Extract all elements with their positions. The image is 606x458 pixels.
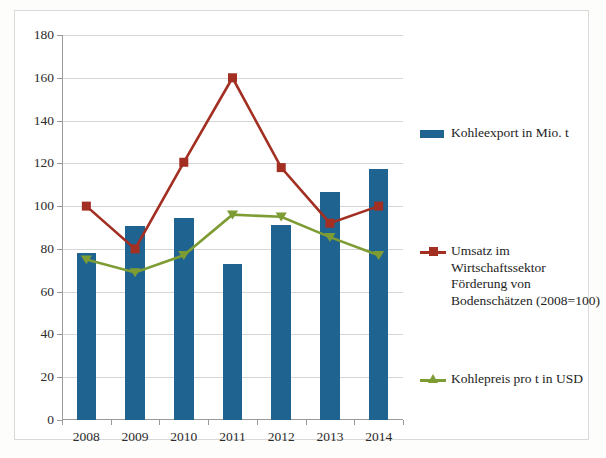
x-axis-tick [159, 420, 160, 425]
legend-label-umsatz-line2: Förderung von [451, 276, 531, 291]
line-triangle-marker-icon [420, 373, 446, 387]
gridline [62, 163, 403, 164]
y-axis [62, 35, 63, 420]
y-axis-tick-label: 0 [18, 413, 54, 427]
line-square-marker-icon [420, 245, 446, 259]
x-axis-tick-label: 2013 [316, 429, 343, 445]
gridline [62, 121, 403, 122]
bar-2013 [320, 192, 339, 420]
chart-legend: Kohleexport in Mio. t Umsatz im Wirtscha… [420, 35, 600, 420]
legend-label-umsatz-line1: Umsatz im Wirtschaftssektor [451, 243, 546, 275]
gridline [62, 249, 403, 250]
legend-label-umsatz: Umsatz im WirtschaftssektorFörderung von… [451, 243, 600, 309]
legend-item-kohleexport[interactable]: Kohleexport in Mio. t [420, 125, 569, 142]
bar-2011 [223, 264, 242, 420]
x-axis-tick-label: 2008 [73, 429, 100, 445]
legend-label-umsatz-line3: Bodenschätzen (2008=100) [451, 293, 600, 308]
x-axis-tick-label: 2014 [365, 429, 392, 445]
bar-2014 [369, 169, 388, 420]
gridline [62, 78, 403, 79]
legend-label-kohleexport: Kohleexport in Mio. t [451, 125, 569, 142]
x-axis-tick [208, 420, 209, 425]
x-axis-tick [354, 420, 355, 425]
gridline [62, 35, 403, 36]
plot-area: 0204060801001201401601802008200920102011… [62, 35, 403, 420]
y-axis-tick-label: 100 [18, 199, 54, 213]
bar-swatch-icon [420, 127, 446, 141]
y-axis-tick-label: 180 [18, 28, 54, 42]
y-axis-tick-label: 60 [18, 285, 54, 299]
y-axis-tick-label: 140 [18, 114, 54, 128]
x-axis-tick [111, 420, 112, 425]
legend-item-umsatz[interactable]: Umsatz im WirtschaftssektorFörderung von… [420, 243, 600, 309]
y-axis-tick-label: 20 [18, 370, 54, 384]
y-axis-tick-label: 120 [18, 157, 54, 171]
bar-2012 [271, 225, 290, 420]
x-axis-tick-label: 2010 [170, 429, 197, 445]
y-axis-tick-label: 80 [18, 242, 54, 256]
legend-item-kohlepreis[interactable]: Kohlepreis pro t in USD [420, 371, 583, 388]
y-axis-tick-label: 160 [18, 71, 54, 85]
x-axis-tick [306, 420, 307, 425]
gridline [62, 206, 403, 207]
y-axis-tick-label: 40 [18, 328, 54, 342]
x-axis-tick [403, 420, 404, 425]
plot-inner: 0204060801001201401601802008200920102011… [62, 35, 403, 420]
x-axis-tick [62, 420, 63, 425]
x-axis-tick-label: 2011 [219, 429, 246, 445]
x-axis-tick [257, 420, 258, 425]
bar-2009 [125, 226, 144, 420]
chart-frame: 0204060801001201401601802008200920102011… [14, 10, 589, 440]
bar-2008 [77, 253, 96, 420]
chart-root: 0204060801001201401601802008200920102011… [0, 0, 606, 458]
x-axis-tick-label: 2012 [268, 429, 295, 445]
legend-label-kohlepreis: Kohlepreis pro t in USD [451, 371, 583, 388]
x-axis-tick-label: 2009 [122, 429, 149, 445]
bar-2010 [174, 218, 193, 420]
